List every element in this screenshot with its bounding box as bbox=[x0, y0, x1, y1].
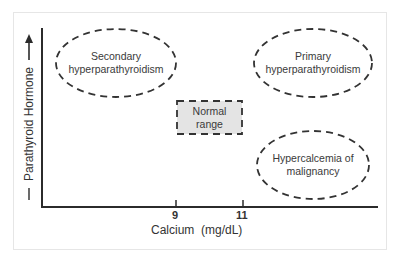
secondary-line1: Secondary bbox=[66, 50, 166, 63]
x-tick-label-11: 11 bbox=[236, 209, 248, 221]
primary-line1: Primary bbox=[261, 50, 365, 63]
normal-range-label: Normal range bbox=[180, 105, 239, 131]
x-axis-label: Calcium (mg/dL) bbox=[151, 223, 242, 237]
up-arrow-icon bbox=[25, 34, 33, 60]
malignancy-line1: Hypercalcemia of bbox=[258, 152, 368, 165]
x-tick-label-9: 9 bbox=[172, 209, 178, 221]
y-axis-label: Parathyroid Hormone bbox=[22, 62, 36, 186]
secondary-line2: hyperparathyroidism bbox=[66, 63, 166, 76]
malignancy-line2: malignancy bbox=[258, 165, 368, 178]
secondary-region-label: Secondary hyperparathyroidism bbox=[66, 50, 166, 76]
normal-line1: Normal bbox=[180, 105, 239, 118]
primary-region-label: Primary hyperparathyroidism bbox=[261, 50, 365, 76]
malignancy-region-label: Hypercalcemia of malignancy bbox=[258, 152, 368, 178]
normal-line2: range bbox=[180, 118, 239, 131]
primary-line2: hyperparathyroidism bbox=[261, 63, 365, 76]
